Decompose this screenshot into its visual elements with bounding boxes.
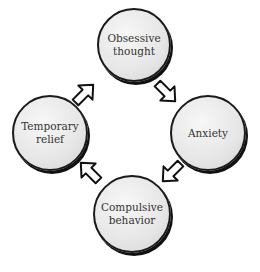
cycle-arrows	[0, 0, 260, 272]
arrow-relief-to-obsessive-icon	[68, 78, 100, 110]
arrow-obsessive-to-anxiety-icon	[150, 76, 182, 108]
arrow-anxiety-to-compulsive-icon	[156, 156, 188, 188]
arrow-compulsive-to-relief-icon	[74, 156, 106, 188]
